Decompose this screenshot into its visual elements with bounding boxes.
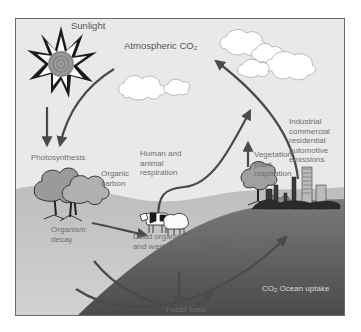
carbon-cycle-diagram: Sunlight Atmospheric CO2 Photosynthesis … (15, 18, 345, 316)
label-organism-decay: Organismdecay (51, 225, 86, 244)
label-root-respiration: Rootrespiration (229, 231, 266, 250)
label-vegetation-respiration: Vegetationplantrespiration (254, 150, 292, 179)
label-atmospheric-co2: Atmospheric CO2 (124, 41, 197, 54)
label-dead-organisms: Dead organismsand waste products (133, 232, 202, 251)
label-photosynthesis: Photosynthesis (31, 153, 85, 163)
label-ocean-uptake: CO2 Ocean uptake (262, 284, 329, 296)
label-fossil-fuels: Fossil fuels (166, 305, 206, 315)
sun-icon (27, 26, 97, 98)
label-sunlight: Sunlight (71, 21, 105, 31)
label-human-animal-respiration: Human andanimalrespiration (140, 149, 181, 178)
label-human-uses: Human uses (284, 224, 329, 234)
label-emissions: Industrialcommercialresidentialautomotiv… (289, 117, 330, 165)
label-organic-carbon: Organiccarbon (101, 169, 129, 188)
